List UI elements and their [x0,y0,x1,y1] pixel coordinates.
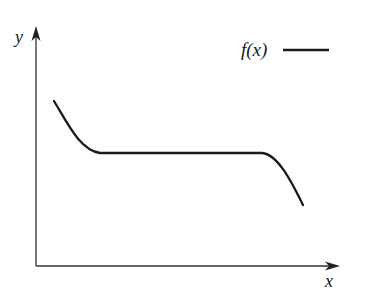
chart-canvas: y x f(x) [0,0,371,300]
legend: f(x) [241,39,329,61]
x-axis [36,262,340,271]
legend-label: f(x) [241,39,267,61]
y-axis-label: y [13,27,23,47]
x-axis-label: x [324,271,333,291]
y-axis [32,26,41,266]
f-x-curve [54,101,303,205]
